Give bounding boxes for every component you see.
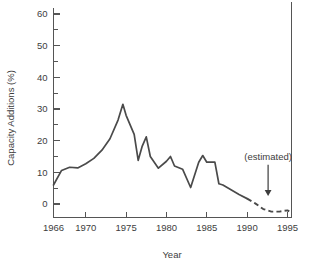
x-tick-label: 1990	[237, 222, 258, 233]
y-tick-label: 60	[37, 8, 48, 19]
y-tick-label: 10	[37, 167, 48, 178]
y-tick-label: 40	[37, 72, 48, 83]
y-axis-title: Capacity Additions (%)	[5, 70, 16, 166]
series-line-estimated	[247, 199, 291, 213]
y-tick-label: 50	[37, 40, 48, 51]
x-tick-label: 1985	[196, 222, 217, 233]
y-tick-label: 30	[37, 103, 48, 114]
x-tick-label: 1970	[75, 222, 96, 233]
x-tick-label: 1966	[43, 222, 64, 233]
annotation-label: (estimated)	[244, 151, 292, 162]
chart-axes	[54, 2, 292, 218]
x-axis-ticks: 1966197019751980198519901995	[43, 212, 298, 233]
x-axis-title: Year	[162, 249, 181, 260]
y-tick-label: 0	[42, 198, 47, 209]
x-tick-label: 1995	[277, 222, 298, 233]
annotation-arrow-head	[265, 190, 272, 196]
capacity-additions-line-chart: 1966197019751980198519901995 01020304050…	[0, 0, 312, 268]
series-line-actual	[54, 104, 248, 198]
x-tick-label: 1980	[156, 222, 177, 233]
chart-figure: 1966197019751980198519901995 01020304050…	[0, 0, 312, 268]
chart-annotations: (estimated)	[244, 151, 292, 196]
y-tick-label: 20	[37, 135, 48, 146]
x-tick-label: 1975	[116, 222, 137, 233]
